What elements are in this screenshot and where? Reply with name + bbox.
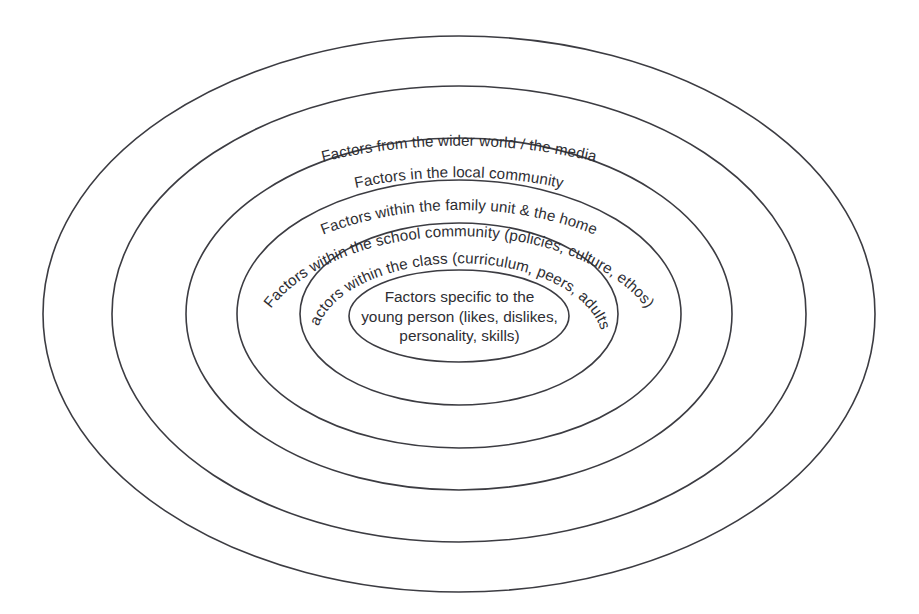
ring-label-young-person-line-1: Factors specific to the xyxy=(0,287,919,307)
ring-label-young-person-line-3: personality, skills) xyxy=(0,326,919,346)
ecological-factors-diagram: Factors from the wider world / the media… xyxy=(0,0,919,614)
ring-label-local-community-textpath: Factors in the local community xyxy=(353,163,566,191)
ring-label-class-textpath: Factors within the class (curriculum, pe… xyxy=(0,0,614,332)
ring-label-young-person-line-2: young person (likes, dislikes, xyxy=(0,307,919,327)
ring-label-wider-world-media: Factors from the wider world / the media xyxy=(319,132,599,165)
ring-label-class: Factors within the class (curriculum, pe… xyxy=(0,0,614,332)
ring-label-local-community: Factors in the local community xyxy=(353,163,566,191)
ring-label-young-person: Factors specific to the young person (li… xyxy=(0,287,919,346)
ring-label-wider-world-media-textpath: Factors from the wider world / the media xyxy=(319,132,599,165)
